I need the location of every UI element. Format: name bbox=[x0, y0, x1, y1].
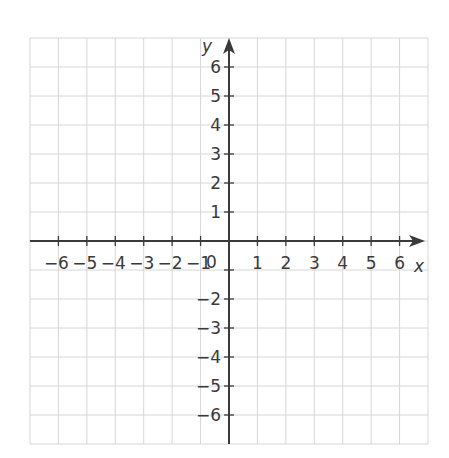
origin-label: 0 bbox=[206, 252, 217, 272]
x-tick-label: 4 bbox=[337, 253, 348, 273]
x-tick-label: −4 bbox=[101, 253, 126, 273]
y-tick-label: 5 bbox=[210, 86, 221, 106]
y-axis-label: y bbox=[201, 36, 213, 56]
x-tick-label: −6 bbox=[44, 253, 69, 273]
x-tick-label: 6 bbox=[394, 253, 405, 273]
axes bbox=[30, 38, 425, 444]
y-tick-label: 2 bbox=[210, 173, 221, 193]
x-tick-label: 1 bbox=[252, 253, 263, 273]
x-tick-label: 5 bbox=[366, 253, 377, 273]
x-tick-label: −5 bbox=[72, 253, 97, 273]
y-tick-label: 6 bbox=[210, 57, 221, 77]
y-tick-label: −6 bbox=[196, 405, 221, 425]
coordinate-plane: −6−5−4−3−2−1123456654321−2−3−4−5−6 x y 0 bbox=[0, 0, 449, 458]
x-tick-label: −3 bbox=[129, 253, 154, 273]
y-tick-label: −4 bbox=[196, 347, 221, 367]
x-tick-label: 2 bbox=[280, 253, 291, 273]
y-tick-label: −5 bbox=[196, 376, 221, 396]
x-tick-label: −2 bbox=[158, 253, 183, 273]
y-tick-label: 1 bbox=[210, 202, 221, 222]
y-tick-label: 4 bbox=[210, 115, 221, 135]
y-tick-label: −3 bbox=[196, 318, 221, 338]
x-tick-label: 3 bbox=[309, 253, 320, 273]
y-tick-label: 3 bbox=[210, 144, 221, 164]
x-axis-label: x bbox=[413, 256, 425, 276]
y-tick-label: −2 bbox=[196, 289, 221, 309]
